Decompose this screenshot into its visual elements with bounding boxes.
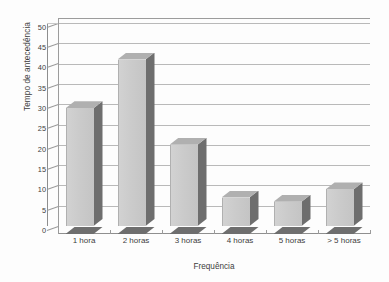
x-axis-tick-mark (370, 230, 371, 234)
x-axis-tick-label: 4 horas (227, 236, 254, 245)
bar (274, 195, 302, 226)
x-axis-tick-mark (318, 230, 319, 234)
plot-frame (58, 18, 370, 233)
x-axis-tick-mark (162, 230, 163, 234)
y-axis-tick-label: 20 (16, 144, 46, 153)
bar-side-face (354, 182, 363, 226)
x-axis-tick-label: 3 horas (175, 236, 202, 245)
bar-side-face (146, 53, 155, 226)
x-axis-tick-mark (214, 230, 215, 234)
chart-floor-3d (58, 226, 378, 234)
bar (222, 191, 250, 226)
x-axis-tick-mark (58, 230, 59, 234)
bar-front-face (118, 60, 146, 226)
bar-side-face (94, 101, 103, 226)
x-axis-title: Frequência (58, 262, 370, 271)
plot-area (58, 18, 370, 233)
x-axis-tick-label: 1 hora (73, 236, 96, 245)
bar-front-face (274, 202, 302, 226)
y-axis-title: Tempo de antecedência (23, 2, 32, 132)
x-axis-tick-mark (110, 230, 111, 234)
y-axis-tick-label: 5 (16, 205, 46, 214)
bar-front-face (326, 189, 354, 226)
bar-front-face (222, 198, 250, 226)
bar (326, 182, 354, 226)
y-axis-tick-label: 0 (16, 225, 46, 234)
y-axis-tick-label: 10 (16, 185, 46, 194)
x-axis-tick-label: 5 horas (279, 236, 306, 245)
x-axis-tick-label: > 5 horas (327, 236, 361, 245)
x-axis-tick-labels: 1 hora2 horas3 horas4 horas5 horas> 5 ho… (58, 236, 370, 252)
y-axis-tick-label: 15 (16, 164, 46, 173)
bar (118, 53, 146, 226)
bar-front-face (66, 108, 94, 226)
bar (66, 101, 94, 226)
bar-side-face (198, 138, 207, 226)
x-axis-tick-label: 2 horas (123, 236, 150, 245)
bar-chart-figure: 05101520253035404550 Tempo de antecedênc… (0, 0, 389, 282)
x-axis-tick-mark (266, 230, 267, 234)
bar-front-face (170, 145, 198, 226)
bar (170, 138, 198, 226)
